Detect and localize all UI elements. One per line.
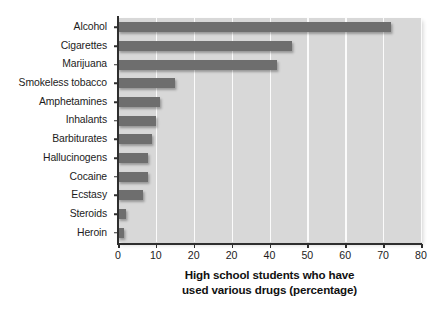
category-label-hallucinogens: Hallucinogens	[0, 149, 113, 168]
bar	[118, 22, 391, 32]
gridline	[421, 18, 422, 242]
bar	[118, 209, 126, 219]
x-tick-mark	[307, 244, 309, 248]
x-tick-mark	[421, 244, 423, 248]
plot-area	[118, 18, 421, 242]
x-tick-label: 10	[150, 249, 162, 262]
category-label-cocaine: Cocaine	[0, 167, 113, 186]
category-label-barbiturates: Barbiturates	[0, 130, 113, 149]
x-tick-mark	[118, 244, 120, 248]
x-axis-tick-labels: 01020204050607080	[118, 249, 421, 264]
category-axis: Alcohol Cigarettes Marijuana Smokeless t…	[0, 18, 113, 242]
bar-row	[118, 167, 421, 186]
bar-row	[118, 93, 421, 112]
category-label-inhalants: Inhalants	[0, 111, 113, 130]
bar	[118, 134, 152, 144]
bar-row	[118, 149, 421, 168]
bar-row	[118, 223, 421, 242]
x-tick-mark	[232, 244, 234, 248]
x-tick-mark	[156, 244, 158, 248]
category-label-alcohol: Alcohol	[0, 18, 113, 37]
bar-row	[118, 130, 421, 149]
bar	[118, 190, 143, 200]
category-label-steroids: Steroids	[0, 205, 113, 224]
bar-row	[118, 55, 421, 74]
bar-row	[118, 186, 421, 205]
bar-row	[118, 74, 421, 93]
x-tick-label: 70	[377, 249, 389, 262]
x-tick-label: 50	[301, 249, 313, 262]
bar	[118, 153, 148, 163]
bar	[118, 116, 156, 126]
x-tick-mark	[383, 244, 385, 248]
bar-row	[118, 18, 421, 37]
bar	[118, 97, 160, 107]
x-tick-mark	[194, 244, 196, 248]
x-tick-label: 80	[415, 249, 427, 262]
bars-layer	[118, 18, 421, 242]
x-tick-label: 0	[115, 249, 121, 262]
bar-row	[118, 111, 421, 130]
category-label-amphetamines: Amphetamines	[0, 93, 113, 112]
bar	[118, 41, 292, 51]
bar	[118, 78, 175, 88]
x-tick-label: 60	[339, 249, 351, 262]
bar	[118, 172, 148, 182]
x-tick-label: 20	[188, 249, 200, 262]
x-axis-title-line-2: used various drugs (percentage)	[118, 283, 421, 298]
y-axis-line	[117, 16, 119, 244]
x-axis-title: High school students who have used vario…	[118, 268, 421, 297]
x-tick-label: 40	[264, 249, 276, 262]
category-label-marijuana: Marijuana	[0, 55, 113, 74]
x-tick-label: 20	[226, 249, 238, 262]
bar	[118, 60, 277, 70]
bar	[118, 228, 124, 238]
x-tick-mark	[270, 244, 272, 248]
x-tick-mark	[345, 244, 347, 248]
category-label-cigarettes: Cigarettes	[0, 37, 113, 56]
bar-chart-figure: Alcohol Cigarettes Marijuana Smokeless t…	[0, 0, 438, 311]
category-label-smokeless-tobacco: Smokeless tobacco	[0, 74, 113, 93]
x-axis-title-line-1: High school students who have	[118, 268, 421, 283]
bar-row	[118, 37, 421, 56]
category-label-ecstasy: Ecstasy	[0, 186, 113, 205]
category-label-heroin: Heroin	[0, 223, 113, 242]
bar-row	[118, 205, 421, 224]
